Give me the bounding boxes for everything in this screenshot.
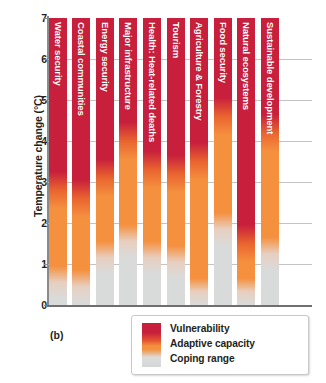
bar-label: Food security [217,22,228,83]
bar-column[interactable]: Health: Heat-related deaths [143,18,161,305]
bar-label: Water security [52,22,63,86]
bar-label: Health: Heat-related deaths [146,22,157,142]
bar-label: Agriculture & Forestry [194,22,205,121]
legend-gradient-swatch [142,323,161,367]
figure-panel-b: Temperature change (°C) 01234567 Water s… [0,0,326,383]
bar-label: Major infrastructure [123,22,134,110]
bar-column[interactable]: Energy security [96,18,114,305]
bar-column[interactable]: Agriculture & Forestry [190,18,208,305]
bar-column[interactable]: Sustainable development [261,18,279,305]
y-axis-ticks: 01234567 [28,0,47,383]
bar-label: Coastal communities [76,22,87,116]
legend-item-adaptive-capacity: Adaptive capacity [170,338,255,349]
plot-area: Water securityCoastal communitiesEnergy … [48,18,312,305]
legend: Vulnerability Adaptive capacity Coping r… [131,315,309,375]
bar-column[interactable]: Major infrastructure [119,18,137,305]
bar-label: Energy security [99,22,110,92]
bar-column[interactable]: Water security [49,18,67,305]
x-axis-baseline [47,305,312,307]
bar-label: Sustainable development [264,22,275,134]
bar-column[interactable]: Food security [214,18,232,305]
bar-label: Natural ecosystems [241,22,252,110]
bar-label: Tourism [170,22,181,58]
bar-column[interactable]: Tourism [167,18,185,305]
legend-item-coping-range: Coping range [170,353,234,364]
bar-column[interactable]: Coastal communities [72,18,90,305]
panel-label: (b) [50,329,63,341]
legend-item-vulnerability: Vulnerability [170,323,229,334]
bar-column[interactable]: Natural ecosystems [237,18,255,305]
